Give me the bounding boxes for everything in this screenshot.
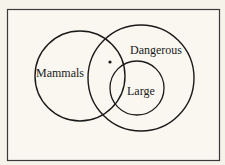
venn-diagram-svg	[0, 0, 225, 165]
large-label: Large	[127, 85, 155, 97]
dangerous-label: Dangerous	[130, 44, 182, 56]
venn-diagram-canvas: Mammals Dangerous Large	[0, 0, 225, 165]
mammals-label: Mammals	[36, 67, 84, 79]
element-point	[108, 60, 111, 63]
